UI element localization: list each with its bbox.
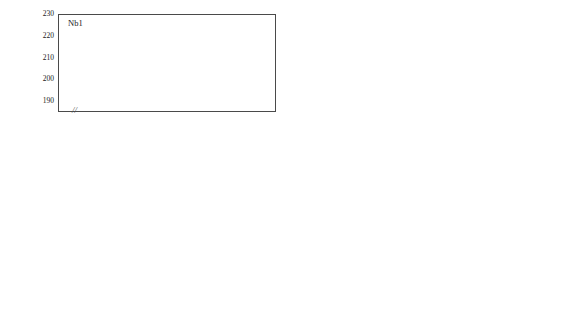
x-axis-break-icon: // — [72, 105, 77, 115]
panel-title-nb1: Nb1 — [68, 18, 83, 28]
figure-root: Nb1190200210220230// — [0, 0, 577, 317]
y-tick-label: 210 — [28, 53, 54, 62]
y-tick-label: 200 — [28, 74, 54, 83]
y-tick-label: 220 — [28, 31, 54, 40]
y-tick-label: 190 — [28, 96, 54, 105]
plot-area-nb1 — [58, 14, 276, 112]
y-tick-label: 230 — [28, 9, 54, 18]
